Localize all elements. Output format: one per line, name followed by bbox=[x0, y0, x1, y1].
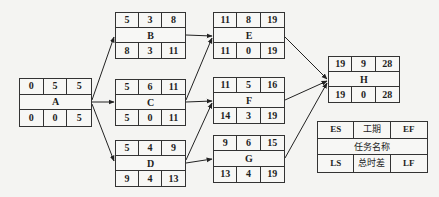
arrow-a-b bbox=[92, 37, 114, 100]
total-float: 0 bbox=[237, 43, 260, 58]
ef: 8 bbox=[162, 13, 185, 28]
task-name: A bbox=[20, 95, 91, 111]
arrow-b-e bbox=[186, 35, 212, 36]
ls: 5 bbox=[116, 110, 139, 125]
task-name: B bbox=[116, 28, 185, 43]
lf: 19 bbox=[261, 167, 284, 182]
ls: 9 bbox=[116, 171, 139, 186]
duration: 9 bbox=[352, 57, 375, 72]
node-h: 19 9 28 H 19 0 28 bbox=[328, 56, 400, 103]
es: 5 bbox=[116, 13, 139, 28]
es: 5 bbox=[116, 141, 139, 156]
lf: 11 bbox=[162, 43, 185, 58]
legend-es: ES bbox=[318, 122, 354, 139]
ef: 9 bbox=[162, 141, 185, 156]
arrow-d-g bbox=[186, 159, 212, 163]
es: 5 bbox=[116, 80, 139, 95]
total-float: 3 bbox=[237, 108, 260, 123]
duration: 5 bbox=[44, 79, 68, 95]
ef: 28 bbox=[376, 57, 399, 72]
legend: ES 工期 EF 任务名称 LS 总时差 LF bbox=[317, 121, 428, 173]
node-a: 0 5 5 A 0 0 5 bbox=[19, 78, 92, 127]
lf: 5 bbox=[67, 110, 91, 126]
ls: 8 bbox=[116, 43, 139, 58]
total-float: 4 bbox=[139, 171, 162, 186]
arrow-f-h bbox=[285, 81, 327, 100]
duration: 6 bbox=[139, 80, 162, 95]
ls: 19 bbox=[329, 87, 352, 102]
arrow-c-f bbox=[186, 101, 212, 102]
arrow-d-f bbox=[186, 103, 212, 160]
total-float: 0 bbox=[44, 110, 68, 126]
es: 0 bbox=[20, 79, 44, 95]
node-c: 5 6 11 C 5 0 11 bbox=[115, 79, 186, 126]
legend-task-name: 任务名称 bbox=[318, 139, 427, 156]
total-float: 0 bbox=[352, 87, 375, 102]
task-name: G bbox=[214, 151, 284, 166]
task-name: H bbox=[329, 72, 399, 87]
arrow-e-h bbox=[285, 37, 327, 79]
node-g: 9 6 15 G 13 4 19 bbox=[213, 135, 285, 183]
duration: 4 bbox=[139, 141, 162, 156]
node-f: 11 5 16 F 14 3 19 bbox=[213, 77, 285, 124]
ef: 19 bbox=[261, 13, 284, 28]
lf: 19 bbox=[261, 43, 284, 58]
ef: 5 bbox=[67, 79, 91, 95]
node-b: 5 3 8 B 8 3 11 bbox=[115, 12, 186, 59]
node-d: 5 4 9 D 9 4 13 bbox=[115, 140, 186, 187]
ls: 14 bbox=[214, 108, 237, 123]
es: 19 bbox=[329, 57, 352, 72]
arrow-a-d bbox=[92, 104, 114, 161]
legend-duration: 工期 bbox=[354, 122, 390, 139]
es: 9 bbox=[214, 136, 237, 151]
ef: 11 bbox=[162, 80, 185, 95]
duration: 6 bbox=[237, 136, 260, 151]
task-name: E bbox=[214, 28, 284, 43]
legend-lf: LF bbox=[391, 155, 427, 172]
ls: 13 bbox=[214, 167, 237, 182]
duration: 3 bbox=[139, 13, 162, 28]
legend-ef: EF bbox=[391, 122, 427, 139]
ef: 15 bbox=[261, 136, 284, 151]
es: 11 bbox=[214, 78, 237, 93]
task-name: F bbox=[214, 93, 284, 108]
legend-ls: LS bbox=[318, 155, 354, 172]
ls: 11 bbox=[214, 43, 237, 58]
legend-total-float: 总时差 bbox=[354, 155, 390, 172]
total-float: 3 bbox=[139, 43, 162, 58]
task-name: D bbox=[116, 156, 185, 171]
arrow-c-e bbox=[186, 38, 212, 100]
lf: 13 bbox=[162, 171, 185, 186]
total-float: 0 bbox=[139, 110, 162, 125]
node-e: 11 8 19 E 11 0 19 bbox=[213, 12, 285, 59]
total-float: 4 bbox=[237, 167, 260, 182]
ls: 0 bbox=[20, 110, 44, 126]
duration: 8 bbox=[237, 13, 260, 28]
es: 11 bbox=[214, 13, 237, 28]
lf: 11 bbox=[162, 110, 185, 125]
lf: 19 bbox=[261, 108, 284, 123]
duration: 5 bbox=[237, 78, 260, 93]
task-name: C bbox=[116, 95, 185, 110]
ef: 16 bbox=[261, 78, 284, 93]
lf: 28 bbox=[376, 87, 399, 102]
